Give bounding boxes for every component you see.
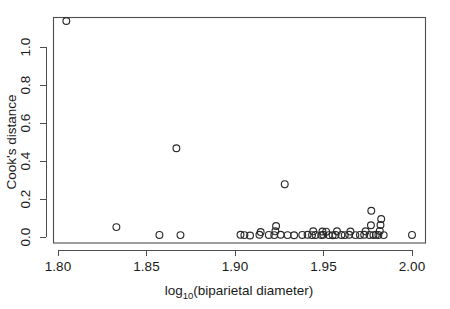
x-axis-ticks bbox=[58, 250, 412, 256]
data-point bbox=[63, 18, 70, 25]
y-axis-title: Cook's distance bbox=[4, 95, 19, 190]
y-tick-label: 0.8 bbox=[18, 76, 33, 95]
data-point bbox=[368, 222, 375, 229]
x-tick-label: 1.95 bbox=[310, 259, 336, 274]
x-tick-label: 2.00 bbox=[399, 259, 425, 274]
x-axis-tick-labels: 1.801.851.901.952.00 bbox=[45, 259, 425, 274]
data-points-layer bbox=[63, 18, 415, 239]
x-axis-title-subscript: 10 bbox=[183, 290, 194, 301]
data-point bbox=[113, 224, 120, 231]
chart-canvas: 1.801.851.901.952.00 0.00.20.40.60.81.0 … bbox=[0, 0, 450, 309]
y-tick-label: 1.0 bbox=[18, 38, 33, 57]
plot-panel-border bbox=[54, 18, 426, 244]
data-point bbox=[281, 181, 288, 188]
x-tick-label: 1.85 bbox=[133, 259, 159, 274]
data-point bbox=[368, 207, 375, 214]
y-axis-ticks bbox=[40, 47, 46, 237]
y-tick-label: 0.4 bbox=[18, 151, 33, 170]
y-tick-label: 0.6 bbox=[18, 114, 33, 133]
y-axis-tick-labels: 0.00.20.40.60.81.0 bbox=[18, 38, 33, 247]
data-point bbox=[156, 232, 163, 239]
cooks-distance-scatter-plot: 1.801.851.901.952.00 0.00.20.40.60.81.0 … bbox=[0, 0, 450, 309]
x-tick-label: 1.80 bbox=[45, 259, 71, 274]
data-point bbox=[284, 232, 291, 239]
y-tick-label: 0.2 bbox=[18, 190, 33, 209]
data-point bbox=[409, 232, 416, 239]
x-tick-label: 1.90 bbox=[222, 259, 248, 274]
y-tick-label: 0.0 bbox=[18, 228, 33, 247]
data-point bbox=[173, 145, 180, 152]
x-axis-title-rest: (biparietal diameter) bbox=[193, 283, 313, 298]
x-axis-title: log10(biparietal diameter) bbox=[165, 283, 314, 301]
data-point bbox=[277, 231, 284, 238]
data-point bbox=[291, 232, 298, 239]
x-axis-title-base: log bbox=[165, 283, 183, 298]
data-point bbox=[177, 232, 184, 239]
